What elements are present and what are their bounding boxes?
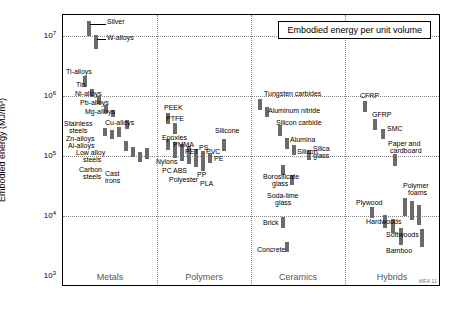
bar-silicon-carbide [278,125,282,136]
label-brick: Brick [263,219,279,226]
chart-title: Embodied energy per unit volume [278,21,431,39]
label-paper-2: cardboard [390,147,422,154]
label-gfrp: GFRP [372,111,391,118]
bar-brick [281,217,285,228]
bar-silicone [222,139,226,151]
label-concrete: Concrete [257,246,285,253]
label-carbon-2: steels [83,173,101,180]
bar-carbonsteels [131,147,135,157]
bar-stainless [117,127,121,137]
label-borosilicate-2: glass [272,180,288,187]
bar-polyester [187,154,191,164]
label-silicon-carbide: Silicon carbide [276,119,322,126]
label-pp: PP [197,171,206,178]
bar-polymer-foams-1 [403,198,407,216]
bar-concrete [285,242,289,252]
label-lowalloy-2: steels [83,156,101,163]
bar-hybrid-extra [420,229,424,247]
label-plywood: Plywood [356,199,382,206]
family-divider-3 [345,15,346,285]
label-alumina: Alumina [290,136,315,143]
label-nialloys: Ni-alloys [75,90,102,97]
family-label-polymers: Polymers [159,272,249,282]
label-softwoods: Softwoods [386,231,419,238]
bar-polymer-foams-2 [410,201,414,220]
label-tungsten-carbides: Tungsten carbides [264,90,321,97]
bar-silicon [292,145,296,155]
label-cast-2: irons [105,177,120,184]
bar-pp [194,157,198,167]
bar-pla [201,160,205,171]
credit-text: MFA 11 [419,278,437,284]
label-silicone: Silicone [215,127,240,134]
bar-walloys [94,35,98,49]
bar-alalloys [110,130,114,139]
label-silver: Silver [107,18,125,25]
label-abs: ABS [173,167,187,174]
label-bamboo: Bamboo [386,247,412,254]
y-tick-1e6: 106 [0,90,56,101]
y-tick-1e5: 105 [0,150,56,161]
label-tin: Tin [76,81,85,88]
y-tick-1e4: 104 [0,210,56,221]
leader-walloys [97,39,106,40]
family-label-metals: Metals [65,272,155,282]
label-peek: PEEK [164,104,183,111]
label-walloys: W-alloys [107,34,134,41]
label-polymer-foams-2: foams [408,189,427,196]
bar-abs [180,151,184,161]
label-nylons: Nylons [156,158,177,165]
label-aluminum-nitride: Aluminum nitride [268,107,320,114]
bar-znalloys [103,128,107,136]
label-soda-2: glass [275,199,291,206]
bar-castirons [138,152,142,162]
label-mgalloys: Mg-alloys [85,108,115,115]
label-pe: PE [214,155,223,162]
y-tick-1e3: 103 [0,270,56,281]
bar-smc [381,129,385,139]
label-polyester: Polyester [169,176,198,183]
label-pla: PLA [200,180,213,187]
bar-tungsten-carbides [258,99,262,110]
leader-silver [90,24,106,25]
label-cualloys: Cu-alloys [105,119,134,126]
label-stainless-2: steels [69,127,87,134]
bar-lowalloy [124,141,128,151]
chart-root: Embodied energy (MJ/m³) 107 106 105 104 … [0,0,460,323]
y-tick-1e7: 107 [0,30,56,41]
label-pet: PET [185,148,199,155]
plot-area: Embodied energy per unit volume Silver W… [62,14,440,286]
label-tialloys: Ti-alloys [66,68,92,75]
bar-cfrp [363,101,367,112]
bar-metal-extra-1 [145,148,149,159]
bar-plywood [370,207,374,218]
label-hardwoods: Hardwoods [366,218,401,225]
bar-polymer-foams-3 [417,205,421,225]
bar-pc [173,148,177,158]
label-silica-2: glass [313,152,329,159]
bar-paper-cardboard [393,154,397,166]
label-smc: SMC [387,125,403,132]
bar-gfrp [373,119,377,130]
family-label-ceramics: Ceramics [253,272,343,282]
family-divider-2 [251,15,252,285]
label-cfrp: CFRP [360,92,379,99]
family-divider-1 [157,15,158,285]
bar-ptfe [173,123,177,134]
bar-alumina [285,138,289,149]
label-pc: PC [162,167,172,174]
label-pballoys: Pb-alloys [80,99,109,106]
label-ptfe: PTFE [166,115,184,122]
